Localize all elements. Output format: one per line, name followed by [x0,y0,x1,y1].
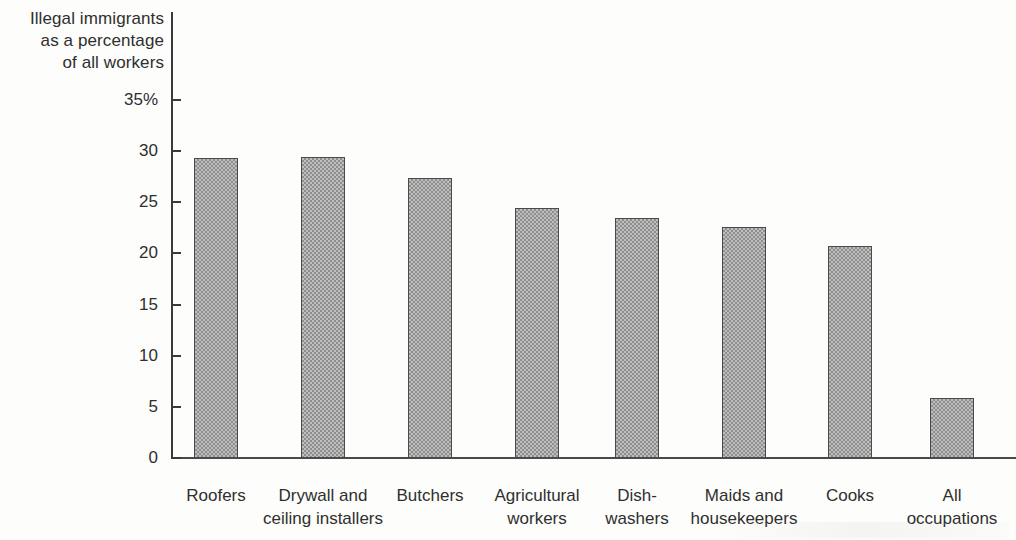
bar [615,218,659,458]
bar [930,398,974,458]
bar [408,178,452,458]
bar [722,227,766,458]
scan-artifact [710,522,1010,538]
bar [301,157,345,458]
bar-chart: Illegal immigrants as a percentage of al… [0,0,1016,540]
bar [194,158,238,458]
bar [515,208,559,458]
bars-layer [0,0,1016,540]
bar [828,246,872,458]
